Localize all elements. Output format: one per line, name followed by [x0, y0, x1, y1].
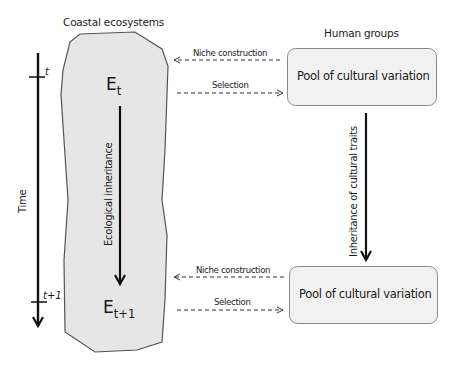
ecological-inheritance-label: Ecological inheritance — [103, 143, 114, 246]
ecosystem-state-t: Et — [106, 74, 121, 98]
cultural-inheritance-label: Inheritance of cultural traits — [348, 126, 359, 257]
state-symbol: E — [103, 297, 114, 317]
time-axis — [29, 53, 47, 326]
niche-construction-label-top: Niche construction — [193, 48, 267, 58]
coastal-ecosystems-title: Coastal ecosystems — [63, 16, 164, 28]
state-subscript: t — [117, 84, 122, 98]
state-subscript: t+1 — [114, 307, 135, 321]
state-symbol: E — [106, 74, 117, 94]
human-groups-title: Human groups — [324, 27, 399, 39]
ecosystem-state-t-plus-1: Et+1 — [103, 297, 135, 321]
tick-label-t-plus-1: t+1 — [43, 290, 62, 301]
cultural-pool-label-top: Pool of cultural variation — [297, 69, 429, 83]
selection-label-bottom: Selection — [214, 297, 250, 307]
tick-label-t: t — [45, 66, 49, 77]
selection-label-top: Selection — [212, 80, 248, 90]
niche-construction-label-bottom: Niche construction — [196, 265, 270, 275]
time-axis-label: Time — [17, 190, 28, 213]
cultural-pool-label-bottom: Pool of cultural variation — [299, 287, 431, 301]
